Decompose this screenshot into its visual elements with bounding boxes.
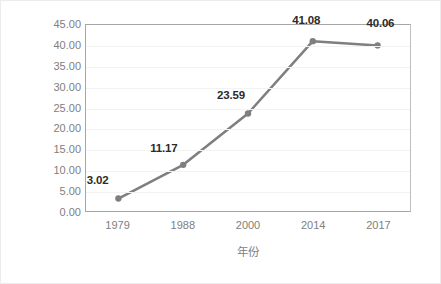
y-axis-tick-labels: 0.005.0010.0015.0020.0025.0030.0035.0040… bbox=[37, 24, 81, 212]
data-point-label: 3.02 bbox=[87, 174, 109, 186]
gridline bbox=[86, 129, 410, 130]
gridline bbox=[86, 88, 410, 89]
data-point-label: 23.59 bbox=[217, 89, 245, 101]
gridline bbox=[86, 67, 410, 68]
x-axis-title: 年份 bbox=[85, 243, 411, 259]
x-axis-tick-label: 2000 bbox=[236, 219, 260, 231]
data-line bbox=[118, 41, 377, 198]
y-axis-tick-label: 40.00 bbox=[37, 39, 81, 51]
data-point-label: 41.08 bbox=[292, 14, 320, 26]
data-point-label: 40.06 bbox=[367, 17, 395, 29]
series-line-flow-rate bbox=[86, 25, 410, 211]
y-axis-tick-label: 20.00 bbox=[37, 122, 81, 134]
data-point-marker bbox=[310, 38, 316, 44]
x-axis-tick-labels: 19791988200020142017 bbox=[85, 219, 411, 237]
x-axis-tick-label: 1979 bbox=[105, 219, 129, 231]
plot-area bbox=[85, 24, 411, 212]
x-axis-tick-label: 2014 bbox=[301, 219, 325, 231]
y-axis-tick-label: 10.00 bbox=[37, 164, 81, 176]
y-axis-tick-label: 45.00 bbox=[37, 18, 81, 30]
y-axis-tick-label: 15.00 bbox=[37, 143, 81, 155]
line-chart-figure: 流入率（%） 0.005.0010.0015.0020.0025.0030.00… bbox=[0, 0, 441, 284]
x-axis-tick-label: 2017 bbox=[366, 219, 390, 231]
y-axis-tick-label: 25.00 bbox=[37, 102, 81, 114]
gridline bbox=[86, 109, 410, 110]
data-point-marker bbox=[180, 162, 186, 168]
gridline bbox=[86, 171, 410, 172]
gridline bbox=[86, 46, 410, 47]
gridline bbox=[86, 150, 410, 151]
data-point-marker bbox=[115, 195, 121, 201]
x-axis-tick-label: 1988 bbox=[171, 219, 195, 231]
data-point-marker bbox=[245, 110, 251, 116]
data-point-label: 11.17 bbox=[150, 142, 177, 154]
gridline bbox=[86, 192, 410, 193]
y-axis-tick-label: 5.00 bbox=[37, 185, 81, 197]
y-axis-tick-label: 0.00 bbox=[37, 206, 81, 218]
y-axis-tick-label: 35.00 bbox=[37, 60, 81, 72]
y-axis-tick-label: 30.00 bbox=[37, 81, 81, 93]
